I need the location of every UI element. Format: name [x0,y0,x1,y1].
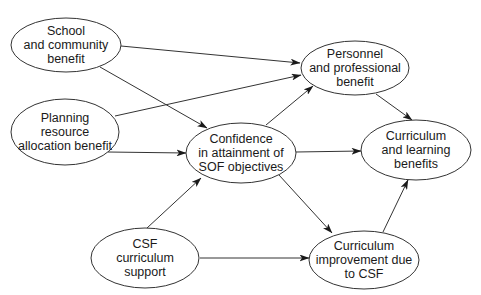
edge-confidence-to-curr_learning [296,151,361,152]
node-planning [11,99,119,165]
node-curr_learning [361,120,471,180]
edge-curr_improvement-to-curr_learning [383,180,408,232]
edge-confidence-to-personnel [266,86,313,125]
node-personnel [301,41,409,95]
edge-personnel-to-curr_learning [376,94,412,120]
edge-school-to-personnel [121,46,300,63]
node-confidence [186,123,296,183]
edge-csf-to-confidence [147,178,201,228]
edge-school-to-confidence [100,67,207,128]
diagram-graphics [0,0,481,295]
nodes-layer [11,18,471,289]
edge-planning-to-personnel [115,75,301,116]
node-curr_improvement [309,231,419,289]
edge-planning-to-confidence [108,152,186,153]
node-csf [91,228,199,288]
node-school [11,18,121,72]
diagram-canvas: School and community benefitPlanning res… [0,0,481,295]
edge-confidence-to-curr_improvement [279,175,332,233]
